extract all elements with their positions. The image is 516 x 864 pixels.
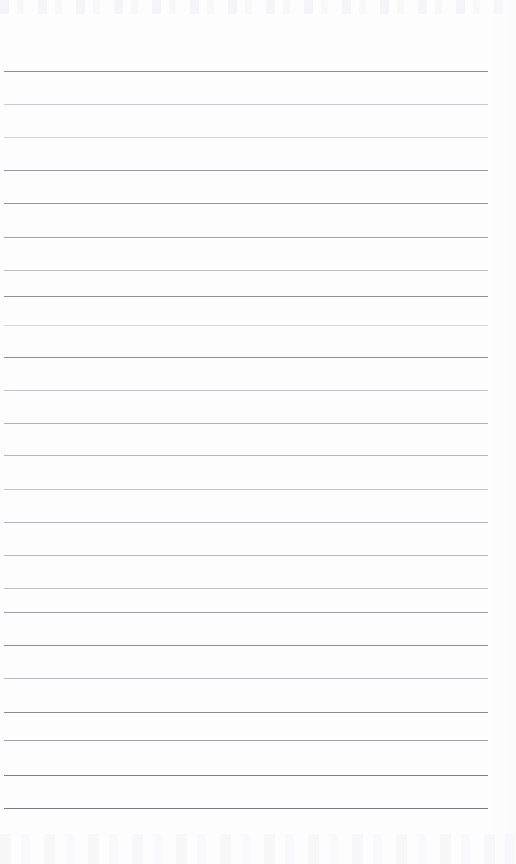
rule-line bbox=[4, 712, 488, 713]
rule-line bbox=[4, 71, 488, 72]
rule-line bbox=[4, 645, 488, 646]
rule-line bbox=[4, 237, 488, 238]
rule-line bbox=[4, 296, 488, 297]
rule-line bbox=[4, 203, 488, 204]
rule-line bbox=[4, 678, 488, 679]
rule-line bbox=[4, 588, 488, 589]
rule-line bbox=[4, 775, 488, 776]
rule-line bbox=[4, 522, 488, 523]
rule-line bbox=[4, 104, 488, 105]
rule-line bbox=[4, 170, 488, 171]
paper-right-edge-shading bbox=[490, 0, 516, 864]
rule-line bbox=[4, 270, 488, 271]
rule-line bbox=[4, 325, 488, 326]
rule-line bbox=[4, 455, 488, 456]
rule-line bbox=[4, 423, 488, 424]
notebook-page bbox=[0, 0, 516, 864]
rule-line bbox=[4, 489, 488, 490]
rule-line bbox=[4, 808, 488, 809]
scan-noise-bottom-edge bbox=[0, 834, 516, 864]
rule-line bbox=[4, 137, 488, 138]
rule-line bbox=[4, 740, 488, 741]
rule-line bbox=[4, 612, 488, 613]
rule-line bbox=[4, 555, 488, 556]
scan-noise-top-edge bbox=[0, 0, 516, 14]
rule-line bbox=[4, 390, 488, 391]
rule-line bbox=[4, 357, 488, 358]
